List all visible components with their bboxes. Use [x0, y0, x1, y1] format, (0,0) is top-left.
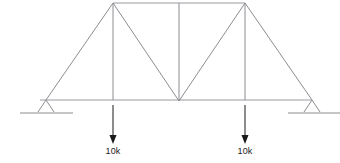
member-right-end-post	[245, 3, 312, 100]
right-support	[288, 100, 340, 113]
truss-members	[40, 3, 312, 101]
load-arrow-right	[242, 105, 249, 144]
member-diagonal-right	[179, 3, 245, 101]
load-label-right: 10k	[237, 147, 252, 156]
left-support-triangle-icon	[38, 100, 54, 112]
load-label-left: 10k	[105, 147, 120, 156]
left-support	[20, 100, 73, 113]
truss-diagram-canvas: 10k 10k	[0, 0, 340, 163]
load-arrow-left	[110, 105, 117, 144]
load-arrow-left-head-icon	[110, 135, 117, 144]
load-arrow-right-head-icon	[242, 135, 249, 144]
right-support-triangle-icon	[304, 100, 320, 112]
member-left-end-post	[46, 3, 113, 100]
truss-diagram-svg	[0, 0, 340, 163]
member-diagonal-left	[113, 3, 179, 101]
